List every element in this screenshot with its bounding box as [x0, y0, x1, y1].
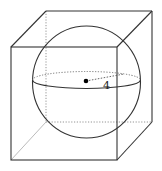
edge-bottom-right-depth [117, 122, 152, 160]
edge-top-right-depth [117, 11, 152, 47]
hidden-edge-bottom-left-depth [11, 122, 46, 160]
edge-top-left-depth [11, 11, 46, 47]
radius-label: 4 [103, 79, 110, 92]
equator-back-dotted [33, 72, 141, 81]
diagram-canvas: 4 [0, 0, 162, 171]
sphere-center-dot [84, 79, 89, 84]
sphere-in-cube-diagram: 4 [0, 0, 162, 171]
